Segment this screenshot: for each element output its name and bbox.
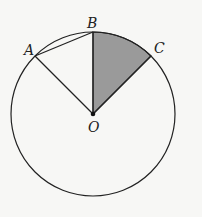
circle-diagram: A B C O xyxy=(0,0,202,217)
label-c: C xyxy=(154,40,165,56)
label-a: A xyxy=(22,42,34,58)
diagram-svg: A B C O xyxy=(0,0,202,217)
label-o: O xyxy=(88,119,100,135)
label-b: B xyxy=(86,15,97,31)
radius-oa xyxy=(35,56,93,114)
center-point-o xyxy=(91,112,96,117)
chord-ab xyxy=(35,32,93,56)
shaded-sector-boc xyxy=(93,32,151,114)
